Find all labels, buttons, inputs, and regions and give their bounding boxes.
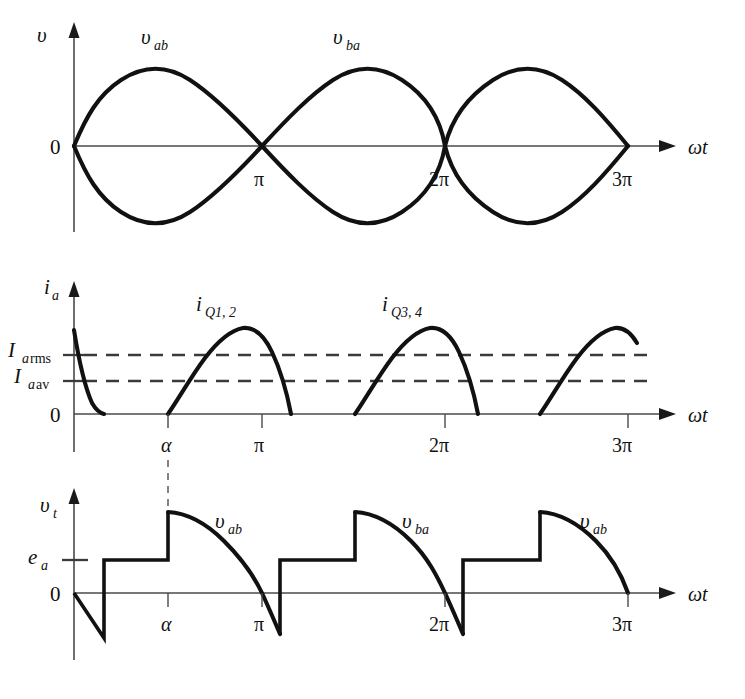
level-label-i-arms-sub-up: rms <box>30 351 51 366</box>
curve-current-tail-initial <box>74 330 104 414</box>
panel3-tick-label-pi: π <box>254 613 264 635</box>
panel3-x-axis-arrowhead <box>659 587 676 599</box>
waveform-figure: υ 0 υ ab υ ba π 2π 3π ωt <box>0 0 745 699</box>
panel-terminal-voltage: υ t e a 0 υ ab υ ba υ ab α π 2π 3π ωt <box>28 488 708 660</box>
curve-current-pulse-2 <box>355 328 478 414</box>
panel3-y-axis-label-sub: t <box>53 506 58 521</box>
panel1-y-axis-arrowhead <box>69 22 80 38</box>
panel3-curve-label-vba: υ ba <box>402 509 429 537</box>
level-label-i-aav: I a av <box>13 364 49 392</box>
waveform-svg: υ 0 υ ab υ ba π 2π 3π ωt <box>0 0 745 699</box>
panel1-tick-label-pi: π <box>254 168 264 190</box>
panel3-origin-label: 0 <box>50 582 61 606</box>
panel3-x-axis-label: ωt <box>688 583 708 605</box>
panel2-curve-label-q12-sub: Q1, 2 <box>205 305 236 320</box>
panel3-curve-label-vab-1: υ ab <box>215 509 242 537</box>
level-label-i-aav-base: I <box>13 364 22 388</box>
panel1-tick-label-3pi: 3π <box>612 168 632 190</box>
panel1-y-axis-label: υ <box>37 23 47 47</box>
panel1-curve-label-vab-sub: ab <box>154 38 168 53</box>
panel2-curve-label-q12-base: i <box>196 292 202 316</box>
panel3-y-axis-label: υ t <box>40 493 58 521</box>
panel3-curve-label-vba-base: υ <box>402 509 412 533</box>
panel1-x-axis-label: ωt <box>688 136 708 158</box>
panel3-curve-label-vab-2: υ ab <box>580 509 607 537</box>
panel3-y-axis-label-base: υ <box>40 493 50 517</box>
panel2-tick-label-2pi: 2π <box>429 434 449 456</box>
panel2-x-axis-label: ωt <box>688 404 708 426</box>
curve-vt-step-1 <box>280 512 355 634</box>
panel1-tick-label-2pi: 2π <box>429 168 449 190</box>
panel1-curve-label-vab: υ ab <box>141 25 168 53</box>
panel3-tick-label-alpha: α <box>161 613 172 635</box>
panel3-back-emf-label: e a <box>28 545 48 573</box>
panel1-curve-label-vba-base: υ <box>333 25 343 49</box>
panel2-y-axis-label-base: i <box>44 275 50 299</box>
panel3-tick-label-3pi: 3π <box>612 613 632 635</box>
panel2-y-axis-label-sub: a <box>52 288 59 303</box>
panel1-x-axis-arrowhead <box>659 140 676 152</box>
panel2-y-axis-arrowhead <box>69 281 80 297</box>
panel2-curve-label-q34-base: i <box>382 292 388 316</box>
panel2-y-axis-label: i a <box>44 275 59 303</box>
panel2-curve-label-q12: i Q1, 2 <box>196 292 236 320</box>
panel3-back-emf-label-sub: a <box>41 558 48 573</box>
panel3-curve-label-vab1-base: υ <box>215 509 225 533</box>
panel2-origin-label: 0 <box>50 403 61 427</box>
panel2-x-axis-arrowhead <box>659 408 676 420</box>
panel3-curve-label-vab2-sub: ab <box>593 522 607 537</box>
panel3-back-emf-label-base: e <box>28 545 37 569</box>
panel3-curve-label-vab1-sub: ab <box>228 522 242 537</box>
panel1-curve-label-vba: υ ba <box>333 25 360 53</box>
panel1-curve-label-vab-base: υ <box>141 25 151 49</box>
curve-current-pulse-3 <box>540 328 637 414</box>
panel-armature-current: i a I a rms I a av 0 i Q1, 2 i Q3, 4 α π… <box>7 275 708 456</box>
curve-vt-cycle-1 <box>74 512 168 638</box>
panel1-curve-label-vba-sub: ba <box>346 38 360 53</box>
panel1-origin-label: 0 <box>50 135 61 159</box>
panel3-y-axis-arrowhead <box>69 488 80 504</box>
panel2-curve-label-q34: i Q3, 4 <box>382 292 422 320</box>
panel2-tick-label-alpha: α <box>161 434 172 456</box>
level-label-i-arms-base: I <box>7 338 16 362</box>
curve-current-pulse-1 <box>168 328 291 414</box>
panel-supply-voltage: υ 0 υ ab υ ba π 2π 3π ωt <box>37 22 708 232</box>
panel2-curve-label-q34-sub: Q3, 4 <box>391 305 422 320</box>
panel3-tick-label-2pi: 2π <box>429 613 449 635</box>
panel2-tick-label-3pi: 3π <box>612 434 632 456</box>
level-label-i-arms: I a rms <box>7 338 51 366</box>
panel3-curve-label-vab2-base: υ <box>580 509 590 533</box>
level-label-i-aav-sub-up: av <box>36 377 49 392</box>
panel2-tick-label-pi: π <box>254 434 264 456</box>
panel3-curve-label-vba-sub: ba <box>415 522 429 537</box>
curve-vt-step-2 <box>463 512 540 634</box>
level-label-i-arms-sub-it: a <box>22 351 29 366</box>
level-label-i-aav-sub-it: a <box>28 377 35 392</box>
